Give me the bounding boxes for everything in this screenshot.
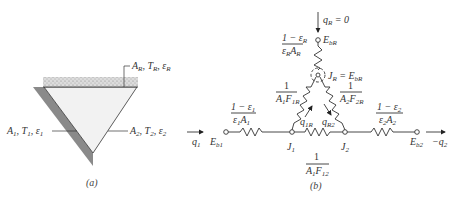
R2R-num: 1 [348,80,353,91]
enclosure-interior [44,87,137,153]
R2R-den: A2F2R [339,93,364,106]
JR-label: JR = EbR [328,70,363,83]
caption-a: (a) [86,177,98,189]
R1-surface-den: ε1A1 [233,114,250,127]
R2-surface-num: 1 − ε2 [377,101,402,114]
q1R-label: q1R [300,116,314,129]
Eb1-label: Eb1 [209,136,223,149]
R-resistance-num: 1 − εR [282,32,308,45]
R12-num: 1 [314,151,319,162]
R-resistance-den: εRAR [282,45,301,58]
R12-den: A1F12 [305,165,329,178]
J2-label: J2 [341,141,349,154]
q2-label: −q2 [432,136,448,149]
caption-b: (b) [310,180,322,192]
EbR-label: EbR [322,34,338,47]
surface-2-label: A2, T2, ε2 [129,125,167,138]
R1R-den: A1F1R [275,93,300,106]
enclosure-diagram: AR, TR, εR A1, T1, ε1 A2, T2, ε2 (a) [6,60,171,189]
surface-1-label: A1, T1, ε1 [6,125,43,138]
R1R-num: 1 [284,80,289,91]
Eb2-label: Eb2 [409,136,424,149]
surface-R-label: AR, TR, εR [131,60,171,73]
R2-surface-den: ε2A2 [379,114,397,127]
R1-surface-num: 1 − ε1 [231,101,255,114]
qR-label: qR = 0 [323,14,349,27]
radiation-network-figure: AR, TR, εR A1, T1, ε1 A2, T2, ε2 (a) [0,0,457,198]
network-diagram [187,12,445,164]
J1-label: J1 [287,141,295,154]
q1-label: q1 [192,136,201,149]
qR2-label: qR2 [322,116,335,129]
